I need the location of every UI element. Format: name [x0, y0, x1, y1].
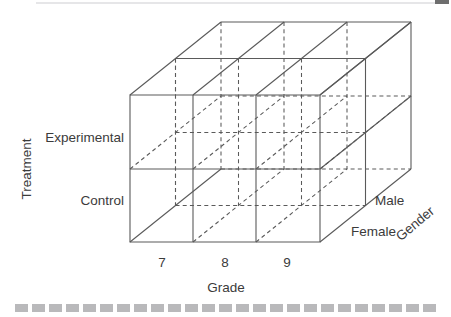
bottom-dashed-strip — [15, 304, 438, 312]
y-tick-label-experimental: Experimental — [45, 130, 124, 145]
z-tick-label-male: Male — [375, 193, 404, 208]
x-tick-label-0: 7 — [158, 255, 166, 270]
z-tick-label-female: Female — [351, 224, 396, 239]
hidden-edges-group — [130, 22, 411, 242]
y-tick-label-control: Control — [80, 193, 124, 208]
x-tick-label-1: 8 — [221, 255, 229, 270]
factorial-design-cube-figure: 7 8 9 Grade Experimental Control Treatme… — [0, 0, 451, 317]
x-tick-label-2: 9 — [283, 255, 291, 270]
x-axis-tick-labels: 7 8 9 — [158, 255, 291, 270]
y-axis-tick-labels: Experimental Control — [45, 130, 124, 208]
x-axis-title: Grade — [207, 280, 245, 295]
y-axis-title: Treatment — [19, 138, 34, 199]
z-axis-title: Gender — [393, 203, 438, 244]
